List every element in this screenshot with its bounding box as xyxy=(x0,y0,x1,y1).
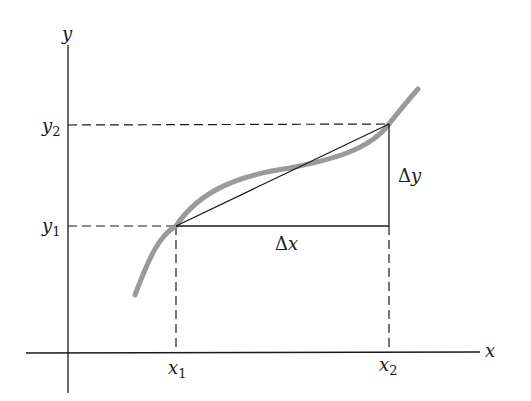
delta-y-label: Δy xyxy=(398,165,422,186)
y-axis-label: y xyxy=(61,23,73,44)
secant-line xyxy=(176,124,389,226)
x-axis xyxy=(26,352,480,353)
function-curve xyxy=(135,89,418,295)
y2-guide-dashed xyxy=(68,124,389,125)
y1-label: y1 xyxy=(41,215,60,239)
y2-label: y2 xyxy=(41,115,60,139)
secant-diagram: y x y2 y1 x1 x2 Δx Δy xyxy=(0,0,531,401)
x1-label: x1 xyxy=(168,357,186,381)
delta-x-label: Δx xyxy=(275,233,298,254)
x2-label: x2 xyxy=(379,354,397,378)
x-axis-label: x xyxy=(485,340,495,361)
